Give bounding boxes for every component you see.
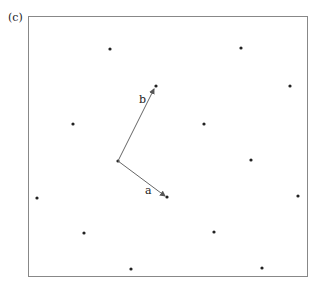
- lattice-point: [260, 266, 263, 269]
- frame: [29, 17, 308, 277]
- vector-b-label: b: [139, 93, 146, 106]
- vector-a-label: a: [145, 184, 152, 197]
- vector-a: [118, 161, 165, 196]
- lattice-point: [35, 196, 38, 199]
- lattice-point: [129, 267, 132, 270]
- lattice-diagram: (c) ab: [0, 0, 327, 286]
- lattice-point: [296, 194, 299, 197]
- lattice-point: [165, 195, 168, 198]
- lattice-point: [288, 84, 291, 87]
- lattice-point: [71, 122, 74, 125]
- lattice-point: [82, 231, 85, 234]
- basis-vectors: ab: [118, 89, 165, 197]
- lattice-point: [249, 158, 252, 161]
- lattice-point: [202, 122, 205, 125]
- lattice-point: [212, 230, 215, 233]
- lattice-point: [154, 84, 157, 87]
- lattice-points: [35, 46, 299, 270]
- lattice-point: [108, 47, 111, 50]
- vector-b: [118, 89, 154, 161]
- lattice-point: [239, 46, 242, 49]
- panel-label: (c): [8, 11, 23, 24]
